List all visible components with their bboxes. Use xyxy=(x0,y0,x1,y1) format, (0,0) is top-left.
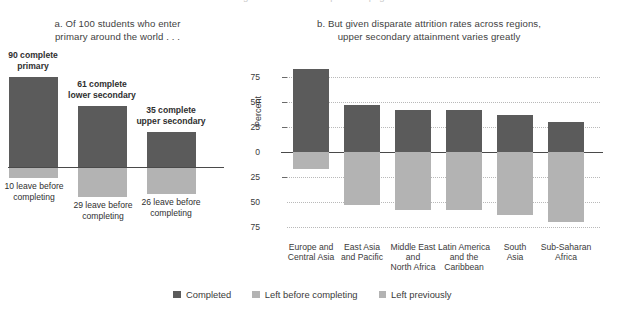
bar-upper-secondary-left-before-completing xyxy=(147,168,196,194)
bar-group-south-asia xyxy=(497,77,533,229)
legend-label-completed: Completed xyxy=(186,289,231,300)
bar-lower-secondary-completed-wrap xyxy=(78,48,127,167)
y-tick-label-neg50: 50 xyxy=(234,197,260,207)
bar-group-europe-and-central-asia xyxy=(293,77,329,229)
panel-b-title-line2: upper secondary attainment varies greatl… xyxy=(248,31,610,44)
bar-europe-and-central-asia-left-previously xyxy=(293,152,329,169)
legend-swatch-left-previously-icon xyxy=(379,291,387,299)
tick-mark-50 xyxy=(282,102,287,103)
bar-lower-secondary-left-wrap xyxy=(78,168,127,197)
bar-lower-secondary-left-before-completing xyxy=(78,168,127,197)
bar-europe-and-central-asia-completed xyxy=(293,69,329,152)
legend-label-left-previously: Left previously xyxy=(391,289,451,300)
tick-mark-25 xyxy=(282,127,287,128)
bar-east-asia-and-pacific-completed xyxy=(344,105,380,152)
bar-group-middle-east-and-north-africa xyxy=(395,77,431,229)
bar-label-26-leave-before-completing: 26 leave before completing xyxy=(133,197,209,218)
bar-upper-secondary-completed xyxy=(147,132,196,167)
panel-b-plot: Percent 75 50 25 0 25 50 75 xyxy=(287,77,600,229)
legend-label-left-before-completing: Left before completing xyxy=(265,289,358,300)
bar-upper-secondary-left-wrap xyxy=(147,168,196,194)
bar-label-29-leave-before-completing: 29 leave before completing xyxy=(65,200,141,221)
y-tick-label-75: 75 xyxy=(234,72,260,82)
panel-b-title: b. But given disparate attrition rates a… xyxy=(248,18,610,43)
panel-a-title-line1: a. Of 100 students who enter xyxy=(10,18,225,31)
bar-middle-east-and-north-africa-left-previously xyxy=(395,152,431,210)
panel-a-title: a. Of 100 students who enter primary aro… xyxy=(10,18,225,43)
bar-primary-completed-wrap xyxy=(9,48,58,167)
tick-mark-75 xyxy=(282,77,287,78)
bar-middle-east-and-north-africa-completed xyxy=(395,110,431,152)
x-label-sub-saharan-africa: Sub-Saharan Africa xyxy=(533,242,599,262)
bar-sub-saharan-africa-completed xyxy=(548,122,584,152)
y-tick-label-50: 50 xyxy=(234,97,260,107)
panel-b: b. But given disparate attrition rates a… xyxy=(232,0,625,285)
bar-primary-completed xyxy=(9,77,58,167)
bar-group-latin-america-and-the-caribbean xyxy=(446,77,482,229)
y-tick-label-neg75: 75 xyxy=(234,222,260,232)
panel-a-plot: 90 complete primary 10 leave before comp… xyxy=(0,48,232,278)
bar-south-asia-completed xyxy=(497,115,533,152)
panel-a: a. Of 100 students who enter primary aro… xyxy=(0,0,232,285)
y-tick-label-neg25: 25 xyxy=(234,172,260,182)
bar-south-asia-left-previously xyxy=(497,152,533,215)
bar-group-sub-saharan-africa xyxy=(548,77,584,229)
y-tick-label-25: 25 xyxy=(234,122,260,132)
legend-item-completed[interactable]: Completed xyxy=(173,289,231,300)
panel-b-title-line1: b. But given disparate attrition rates a… xyxy=(248,18,610,31)
legend-item-left-before-completing[interactable]: Left before completing xyxy=(252,289,357,300)
bar-sub-saharan-africa-left-previously xyxy=(548,152,584,222)
y-tick-label-0: 0 xyxy=(234,147,260,157)
bar-latin-america-and-the-caribbean-completed xyxy=(446,110,482,152)
bar-lower-secondary-completed xyxy=(78,106,127,167)
legend-item-left-previously[interactable]: Left previously xyxy=(379,289,452,300)
legend-swatch-left-before-completing-icon xyxy=(252,291,260,299)
panel-a-title-line2: primary around the world . . . xyxy=(10,31,225,44)
bar-east-asia-and-pacific-left-previously xyxy=(344,152,380,205)
figure-container: a. Of 100 students who enter primary aro… xyxy=(0,0,625,312)
bar-upper-secondary-completed-wrap xyxy=(147,48,196,167)
legend-swatch-completed-icon xyxy=(173,291,181,299)
bar-latin-america-and-the-caribbean-left-previously xyxy=(446,152,482,210)
bar-group-east-asia-and-pacific xyxy=(344,77,380,229)
bar-label-10-leave-before-completing: 10 leave before completing xyxy=(0,181,72,202)
bar-primary-left-before-completing xyxy=(9,168,58,178)
tick-mark-neg25 xyxy=(282,177,287,178)
chart-legend: Completed Left before completing Left pr… xyxy=(0,289,625,300)
bar-primary-left-wrap xyxy=(9,168,58,178)
